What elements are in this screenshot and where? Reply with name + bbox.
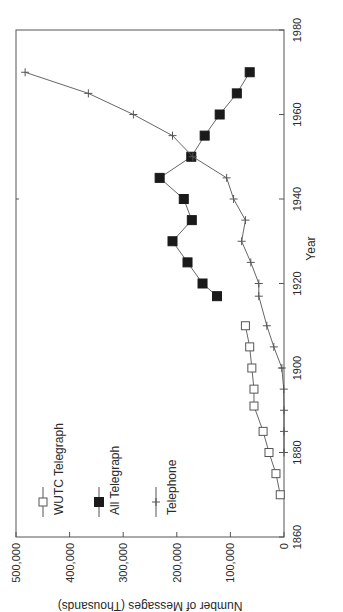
series-line: [25, 72, 284, 452]
plus-marker: [255, 292, 263, 300]
open-square-marker: [39, 498, 47, 506]
x-axis-title: Year: [304, 236, 318, 260]
plus-marker: [280, 427, 288, 435]
filled-square-marker: [245, 68, 254, 77]
x-tick-label: 1860: [291, 525, 303, 549]
filled-square-marker: [200, 131, 209, 140]
series-telephone: [21, 68, 288, 456]
chart-landscape-group: 1860188019001920194019601980 0100,000200…: [10, 18, 318, 612]
x-tick-label: 1940: [291, 187, 303, 211]
filled-square-marker: [183, 258, 192, 267]
open-square-marker: [272, 470, 280, 478]
plus-marker: [280, 449, 288, 457]
y-tick-label: 500,000: [10, 543, 22, 583]
series-line: [160, 72, 250, 296]
plus-marker: [280, 406, 288, 414]
plus-marker-icon: [152, 487, 160, 517]
y-tick-label: 0: [278, 543, 290, 549]
plus-marker: [223, 174, 231, 182]
x-tick-label: 1960: [291, 102, 303, 126]
open-square-marker-icon: [39, 487, 47, 517]
open-square-marker: [250, 402, 258, 410]
plus-marker: [84, 89, 92, 97]
filled-square-marker: [168, 237, 177, 246]
y-tick-label: 200,000: [171, 543, 183, 583]
legend-label: All Telegraph: [108, 446, 122, 515]
plus-marker: [280, 385, 288, 393]
chart-frame: 1860188019001920194019601980 0100,000200…: [0, 0, 343, 612]
legend-item-all-telegraph: All Telegraph: [95, 446, 123, 517]
filled-square-marker: [95, 498, 104, 507]
open-square-marker: [248, 364, 256, 372]
line-chart: 1860188019001920194019601980 0100,000200…: [0, 0, 343, 612]
legend-item-wutc-telegraph: WUTC Telegraph: [39, 423, 66, 517]
open-square-marker: [246, 343, 254, 351]
filled-square-marker-icon: [95, 487, 104, 517]
open-square-marker: [265, 449, 273, 457]
open-square-marker: [241, 322, 249, 330]
plus-marker: [21, 68, 29, 76]
y-axis-ticks: 0100,000200,000300,000400,000500,000: [10, 532, 290, 583]
legend-label: WUTC Telegraph: [52, 423, 66, 515]
plus-marker: [255, 280, 263, 288]
y-axis-title: Number of Messages (Thousands): [58, 599, 243, 612]
plus-marker: [238, 237, 246, 245]
plus-marker: [230, 195, 238, 203]
filled-square-marker: [198, 279, 207, 288]
series-wutc-telegraph: [241, 322, 284, 499]
plus-marker: [278, 364, 286, 372]
filled-square-marker: [232, 89, 241, 98]
x-tick-label: 1980: [291, 18, 303, 42]
y-tick-label: 300,000: [117, 543, 129, 583]
open-square-marker: [276, 491, 284, 499]
y-tick-label: 100,000: [224, 543, 236, 583]
filled-square-marker: [155, 173, 164, 182]
y-tick-label: 400,000: [64, 543, 76, 583]
plus-marker: [152, 498, 160, 506]
series-all-telegraph: [155, 68, 254, 301]
filled-square-marker: [215, 110, 224, 119]
open-square-marker: [250, 385, 258, 393]
open-square-marker: [259, 427, 267, 435]
filled-square-marker: [179, 195, 188, 204]
plus-marker: [263, 322, 271, 330]
legend-item-telephone: Telephone: [152, 459, 179, 517]
plus-marker: [241, 216, 249, 224]
filled-square-marker: [187, 216, 196, 225]
x-tick-label: 1920: [291, 271, 303, 295]
plus-marker: [270, 343, 278, 351]
plus-marker: [129, 111, 137, 119]
x-tick-label: 1880: [291, 440, 303, 464]
legend: WUTC Telegraph All Telegraph Telephone: [39, 423, 179, 517]
legend-label: Telephone: [165, 459, 179, 515]
filled-square-marker: [213, 292, 222, 301]
plus-marker: [247, 258, 255, 266]
x-tick-label: 1900: [291, 356, 303, 380]
